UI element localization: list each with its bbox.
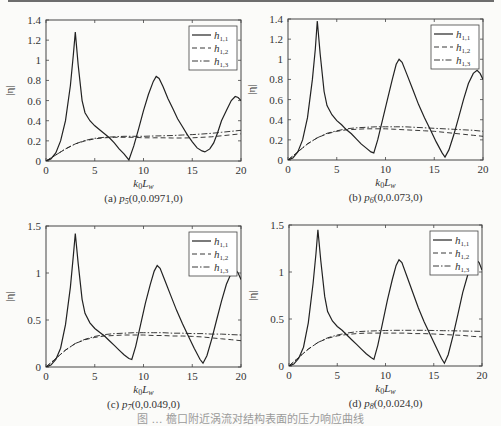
x-tick-label: 5 xyxy=(335,369,341,381)
y-tick-label: 1 xyxy=(36,54,42,66)
y-tick-label: 0 xyxy=(36,155,42,167)
x-tick-label: 15 xyxy=(187,164,199,176)
y-tick-label: 0 xyxy=(278,154,284,166)
y-axis-label: |η| xyxy=(246,290,258,300)
x-axis-label: k0Lw xyxy=(375,382,396,396)
figure-canvas: 0510152000.20.40.60.811.21.4|η|k0Lwh1,1h… xyxy=(0,0,501,426)
y-tick-label: 1 xyxy=(36,267,42,279)
x-tick-label: 20 xyxy=(478,163,490,175)
x-tick-label: 0 xyxy=(43,370,49,382)
x-tick-label: 20 xyxy=(477,369,489,381)
x-tick-label: 20 xyxy=(236,164,248,176)
y-tick-label: 1 xyxy=(279,266,285,278)
chart-panel-c: 0510152000.511.5|η|k0Lwh1,1h1,2h1,3(c) p… xyxy=(3,220,247,412)
figure-caption: 图 … 檐口附近涡流对结构表面的压力响应曲线 xyxy=(0,410,501,426)
x-tick-label: 10 xyxy=(138,164,150,176)
legend: h1,1h1,2h1,3 xyxy=(189,26,237,70)
y-axis-label: |η| xyxy=(3,291,15,301)
y-tick-label: 1.2 xyxy=(27,34,41,46)
y-tick-label: 1.5 xyxy=(27,220,41,232)
x-tick-label: 5 xyxy=(92,164,98,176)
x-axis-label: k0Lw xyxy=(133,383,154,397)
chart-panel-d: 0510152000.511.5|η|k0Lwh1,1h1,2h1,3(d) p… xyxy=(246,219,488,411)
y-tick-label: 1.5 xyxy=(270,219,284,231)
y-axis-label: |η| xyxy=(245,84,257,94)
legend: h1,1h1,2h1,3 xyxy=(189,232,237,276)
x-tick-label: 10 xyxy=(138,370,150,382)
y-tick-label: 1 xyxy=(278,53,284,65)
chart-panel-a: 0510152000.20.40.60.811.21.4|η|k0Lwh1,1h… xyxy=(3,14,247,206)
x-axis-label: k0Lw xyxy=(133,177,154,191)
x-tick-label: 0 xyxy=(286,369,292,381)
legend: h1,1h1,2h1,3 xyxy=(431,25,479,69)
x-tick-label: 5 xyxy=(92,370,98,382)
chart-panel-b: 0510152000.20.40.60.811.21.4|η|k0Lwh1,1h… xyxy=(245,13,489,205)
x-tick-label: 15 xyxy=(187,370,199,382)
y-tick-label: 0.8 xyxy=(27,74,41,86)
y-tick-label: 0.6 xyxy=(27,95,41,107)
subplot-caption: (a) p5(0,0.0971,0) xyxy=(104,192,183,206)
x-tick-label: 0 xyxy=(43,164,49,176)
subplot-caption: (d) p8(0,0.024,0) xyxy=(349,397,423,411)
x-tick-label: 10 xyxy=(380,163,392,175)
y-tick-label: 1.2 xyxy=(269,33,283,45)
y-tick-label: 0.5 xyxy=(27,314,41,326)
x-tick-label: 0 xyxy=(285,163,291,175)
y-tick-label: 0.2 xyxy=(269,134,283,146)
x-tick-label: 15 xyxy=(429,163,441,175)
subplot-caption: (b) p6(0,0.073,0) xyxy=(349,191,423,205)
y-tick-label: 0 xyxy=(279,360,285,372)
series-h1-2-line xyxy=(46,134,241,161)
y-axis-label: |η| xyxy=(3,85,15,95)
y-tick-label: 0.8 xyxy=(269,73,283,85)
y-tick-label: 0.2 xyxy=(27,135,41,147)
legend: h1,1h1,2h1,3 xyxy=(430,231,478,275)
series-h1-3-line xyxy=(288,127,483,160)
y-tick-label: 0.5 xyxy=(270,313,284,325)
x-axis-label: k0Lw xyxy=(375,176,396,190)
x-tick-label: 20 xyxy=(236,370,248,382)
x-tick-label: 15 xyxy=(428,369,440,381)
y-tick-label: 0.6 xyxy=(269,94,283,106)
y-tick-label: 0.4 xyxy=(27,115,41,127)
x-tick-label: 10 xyxy=(380,369,392,381)
x-tick-label: 5 xyxy=(334,163,340,175)
y-tick-label: 0.4 xyxy=(269,114,283,126)
y-tick-label: 1.4 xyxy=(269,13,283,25)
y-tick-label: 0 xyxy=(36,361,42,373)
y-tick-label: 1.4 xyxy=(27,14,41,26)
